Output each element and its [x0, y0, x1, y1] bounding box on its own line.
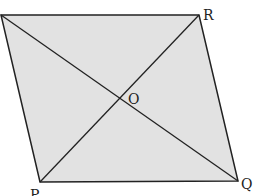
parallelogram-diagram: R Q P O	[0, 0, 254, 196]
vertex-label-R: R	[203, 7, 214, 23]
vertex-label-P: P	[30, 187, 39, 196]
intersection-label-O: O	[128, 91, 139, 107]
vertex-label-Q: Q	[241, 176, 252, 192]
